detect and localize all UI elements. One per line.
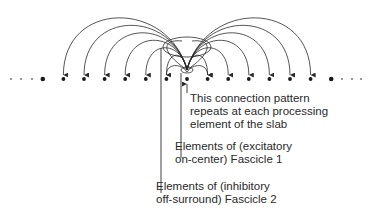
ellipsis-dot — [351, 78, 353, 80]
processing-element — [123, 77, 127, 81]
ellipsis-dot — [31, 78, 33, 80]
loop-outer — [163, 37, 211, 57]
processing-element — [268, 77, 272, 81]
processing-element — [247, 77, 251, 81]
processing-element — [309, 77, 313, 81]
near-arc — [187, 66, 208, 75]
processing-element — [206, 77, 210, 81]
processing-elements — [10, 77, 362, 82]
inhibitory-arc — [166, 55, 187, 75]
ellipsis-dot — [341, 78, 343, 80]
inhibitory-arc — [187, 40, 249, 75]
processing-element — [185, 77, 189, 81]
near-arc — [166, 66, 187, 75]
connection-arcs — [63, 18, 310, 75]
processing-element — [165, 77, 169, 81]
processing-element — [82, 77, 86, 81]
fascicle2-label: Elements of (inhibitory off-surround) Fa… — [156, 180, 277, 206]
inhibitory-arc — [84, 25, 187, 75]
processing-element — [62, 77, 66, 81]
leader-lines — [161, 48, 187, 193]
processing-element — [144, 77, 148, 81]
ellipsis-dot — [10, 78, 12, 80]
processing-element — [288, 77, 292, 81]
pattern-label: This connection pattern repeats at each … — [190, 92, 328, 131]
inhibitory-arc — [63, 18, 187, 75]
inhibitory-arc — [125, 40, 187, 75]
processing-element — [329, 77, 334, 82]
inhibitory-arc — [187, 25, 290, 75]
excitatory-loops — [163, 37, 211, 73]
processing-element — [226, 77, 230, 81]
fascicle1-label: Elements of (excitatory on-center) Fasci… — [175, 140, 292, 166]
inhibitory-arc — [187, 55, 208, 75]
ellipsis-dot — [360, 78, 362, 80]
processing-element — [103, 77, 107, 81]
inhibitory-arc — [187, 18, 311, 75]
ellipsis-dot — [20, 78, 22, 80]
processing-element — [41, 77, 46, 82]
